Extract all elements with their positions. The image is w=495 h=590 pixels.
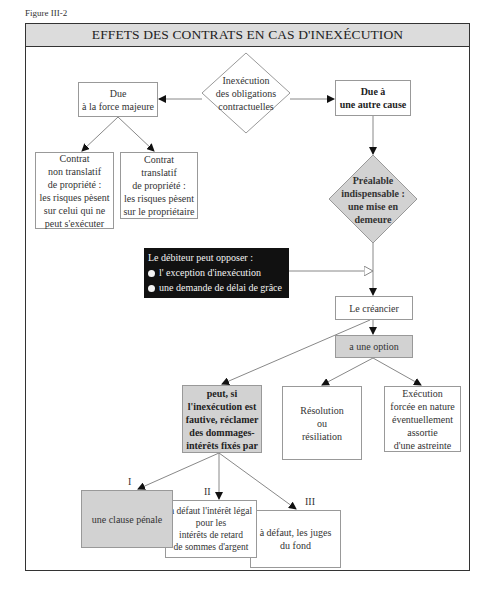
bullet-icon bbox=[148, 285, 155, 292]
debiteur-item: l' exception d'inexécution bbox=[148, 265, 285, 280]
box-interet-legal: à défaut l'intérêt légal pour les intérê… bbox=[165, 500, 257, 558]
box-resolution: Résolution ou résiliation bbox=[282, 386, 362, 460]
bullet-icon bbox=[148, 270, 155, 277]
label-III: III bbox=[305, 496, 315, 507]
box-translatif: Contrat translatif de propriété : les ri… bbox=[120, 152, 198, 219]
box-autre-cause: Due à une autre cause bbox=[335, 80, 411, 116]
box-debiteur: Le débiteur peut opposer : l' exception … bbox=[144, 248, 289, 298]
debiteur-title: Le débiteur peut opposer : bbox=[148, 250, 285, 265]
box-clause-penale: une clause pénale bbox=[81, 490, 173, 548]
box-juges: à défaut, les juges du fond bbox=[250, 510, 341, 568]
box-non-translatif: Contrat non translatif de propriété : le… bbox=[35, 152, 114, 229]
mise-en-demeure-label: Préalable indispensable : une mise en de… bbox=[335, 173, 411, 227]
box-force-majeure: Due à la force majeure bbox=[78, 82, 158, 117]
box-execution-forcee: Exécution forcée en nature éventuellemen… bbox=[384, 386, 461, 452]
box-option: a une option bbox=[335, 335, 413, 358]
debiteur-item: une demande de délai de grâce bbox=[148, 280, 285, 295]
label-I: I bbox=[128, 476, 131, 487]
label-II: II bbox=[204, 486, 211, 497]
inexecution-label: Inexécution des obligations contractuell… bbox=[205, 73, 287, 113]
box-creancier: Le créancier bbox=[335, 296, 413, 320]
box-dommages-interets: peut, si l'inexécution est fautive, récl… bbox=[182, 385, 262, 453]
